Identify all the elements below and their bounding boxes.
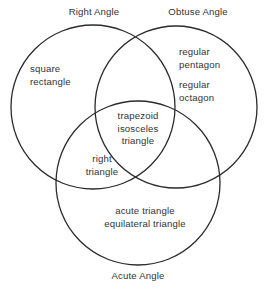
region-item: triangle (98, 135, 178, 148)
region-item: octagon (179, 92, 257, 105)
venn-diagram: Right Angle Obtuse Angle Acute Angle squ… (0, 0, 270, 291)
region-acute-angle-only: acute triangle equilateral triangle (80, 205, 210, 230)
region-item: isosceles (98, 123, 178, 136)
region-item: trapezoid (98, 110, 178, 123)
region-item: right (66, 153, 138, 166)
set-label-right-angle: Right Angle (44, 6, 144, 19)
region-item: triangle (66, 166, 138, 179)
region-item: acute triangle (80, 205, 210, 218)
set-label-acute-angle: Acute Angle (88, 270, 188, 283)
region-triple-intersection: trapezoid isosceles triangle (98, 110, 178, 148)
region-item: equilateral triangle (80, 218, 210, 231)
region-item: square (30, 63, 110, 76)
region-item: rectangle (30, 76, 110, 89)
region-right-angle-only: square rectangle (30, 63, 110, 88)
region-item: regular (179, 46, 257, 59)
region-item: pentagon (179, 59, 257, 72)
region-obtuse-angle-only: regular pentagon regular octagon (179, 46, 257, 104)
region-right-and-acute-intersection: right triangle (66, 153, 138, 178)
set-label-obtuse-angle: Obtuse Angle (146, 6, 250, 19)
region-item: regular (179, 79, 257, 92)
